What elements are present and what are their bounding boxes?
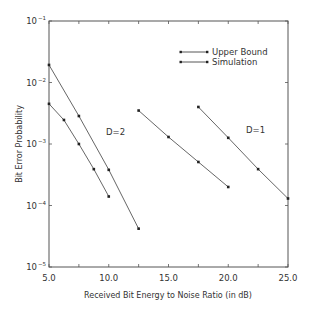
- data-point: [78, 115, 81, 118]
- data-point: [287, 197, 290, 200]
- y-tick-labels: 10−110−210−310−410−5: [26, 15, 46, 272]
- series-line: [139, 111, 229, 188]
- legend-label-simulation: Simulation: [212, 57, 257, 67]
- svg-text:−4: −4: [38, 200, 47, 206]
- x-tick-labels: 5.010.015.020.025.0: [42, 273, 297, 283]
- data-point: [93, 168, 96, 171]
- svg-text:10: 10: [26, 139, 37, 149]
- svg-text:−1: −1: [38, 15, 46, 21]
- data-point: [63, 119, 66, 122]
- annotation-d1: D=1: [246, 125, 265, 135]
- legend-marker: [180, 51, 182, 53]
- x-tick-label: 25.0: [279, 273, 298, 283]
- data-point: [78, 143, 81, 146]
- svg-text:−3: −3: [38, 138, 47, 144]
- svg-text:10: 10: [26, 78, 37, 88]
- data-point: [48, 64, 51, 67]
- series-line: [49, 65, 139, 229]
- svg-text:−2: −2: [38, 77, 46, 83]
- y-tick-label: 10−3: [26, 138, 46, 149]
- x-tick-label: 5.0: [42, 273, 56, 283]
- legend-marker: [180, 61, 182, 63]
- chart-canvas: 5.010.015.020.025.0 10−110−210−310−410−5…: [0, 0, 316, 314]
- x-tick-label: 20.0: [219, 273, 238, 283]
- data-point: [167, 136, 170, 139]
- svg-text:10: 10: [26, 262, 37, 272]
- svg-text:10: 10: [26, 201, 37, 211]
- data-point: [107, 169, 110, 172]
- y-tick-label: 10−2: [26, 77, 46, 88]
- series-line: [198, 107, 288, 199]
- legend-marker: [206, 51, 208, 53]
- legend-marker: [206, 61, 208, 63]
- y-tick-label: 10−1: [26, 15, 46, 26]
- data-point: [137, 227, 140, 230]
- data-point: [227, 186, 230, 189]
- data-point: [107, 195, 110, 198]
- annotation-d2: D=2: [106, 127, 125, 137]
- svg-text:10: 10: [26, 16, 37, 26]
- data-point: [227, 137, 230, 140]
- series-line: [49, 104, 109, 197]
- data-point: [197, 161, 200, 164]
- data-series: [48, 64, 290, 230]
- legend-label-upper-bound: Upper Bound: [212, 47, 268, 57]
- y-tick-label: 10−4: [26, 200, 46, 211]
- y-axis-title: Bit Error Probability: [15, 105, 24, 183]
- x-axis-title: Received Bit Energy to Noise Ratio (in d…: [84, 291, 252, 300]
- x-tick-label: 15.0: [159, 273, 178, 283]
- legend: Upper Bound Simulation: [180, 47, 268, 67]
- data-point: [197, 106, 200, 109]
- data-point: [48, 103, 51, 106]
- data-point: [257, 168, 260, 171]
- x-tick-label: 10.0: [99, 273, 118, 283]
- svg-text:−5: −5: [38, 261, 47, 267]
- y-tick-label: 10−5: [26, 261, 46, 272]
- data-point: [137, 109, 140, 112]
